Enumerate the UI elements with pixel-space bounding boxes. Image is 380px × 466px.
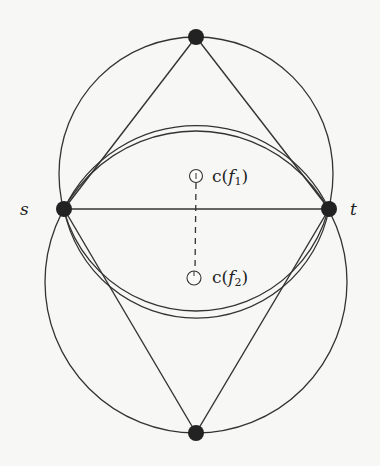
label-c-f2: c(f2) — [212, 267, 248, 289]
edge-s-top — [64, 37, 196, 209]
label-c-f1: c(f1) — [212, 166, 248, 188]
vertex-bottom — [188, 425, 204, 441]
lower-inner-arc — [64, 209, 329, 318]
upper-inner-arc — [64, 126, 329, 209]
vertex-top — [188, 29, 204, 45]
vertex-t — [321, 201, 337, 217]
dual-edge-dashed — [195, 183, 196, 271]
vertex-s — [56, 201, 72, 217]
label-t: t — [350, 199, 357, 219]
edge-bottom-t — [196, 209, 329, 433]
edge-s-bottom — [64, 209, 196, 433]
diagram-canvas: s t c(f1) c(f2) — [0, 0, 380, 466]
label-s: s — [20, 199, 29, 219]
